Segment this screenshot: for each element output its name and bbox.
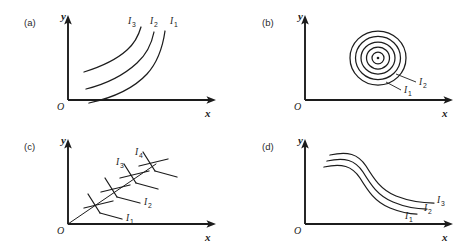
panel-b-label-2: I 2	[418, 77, 427, 89]
panel-d-label-1-sub: 1	[409, 216, 413, 223]
panel-c-label-2: I 2	[143, 197, 152, 209]
panel-c-tag: (c)	[24, 141, 35, 152]
panel-a-origin-label: O	[57, 101, 64, 112]
panel-a-label-3-sub: 3	[132, 21, 136, 28]
panel-c-segment-2-tail	[117, 197, 140, 203]
panel-d-tag: (d)	[262, 141, 274, 152]
panel-a-label-2-sub: 2	[154, 21, 158, 28]
panel-c-segment-1-branch	[84, 201, 113, 208]
panel-c-y-axis-label: y	[59, 134, 66, 146]
panel-b-label-2-sub: 2	[423, 82, 427, 89]
panel-c-origin-label: O	[57, 225, 64, 236]
panel-d-label-2: I 2	[423, 203, 432, 215]
panel-c-segment-4-tail	[155, 171, 177, 177]
panel-b-y-axis-label: y	[296, 10, 303, 22]
panel-a: (a) O y x I 3 I 2 I 1	[24, 10, 216, 119]
panel-b: (b) O y x I 2 I 1	[262, 10, 453, 119]
panel-b-axes	[301, 15, 453, 104]
panel-c-segment-2	[101, 178, 140, 203]
panel-b-x-axis-label: x	[441, 107, 448, 119]
four-panel-curve-figure: (a) O y x I 3 I 2 I 1 (b)	[0, 0, 476, 248]
panel-b-leader-2	[396, 74, 416, 82]
panel-b-label-1: I 1	[403, 85, 412, 97]
panel-a-tag: (a)	[24, 17, 36, 28]
panel-d: (d) O y x I 3 I 2 I 1	[262, 134, 453, 243]
panel-d-label-2-sub: 2	[428, 208, 432, 215]
panel-d-y-axis-label: y	[296, 134, 303, 146]
panel-d-curve-2	[327, 159, 427, 209]
panel-d-label-3-sub: 3	[441, 200, 445, 207]
panel-c-segment-4-branch	[139, 159, 168, 166]
panel-a-label-1: I 1	[169, 16, 178, 28]
panel-c-label-1-sub: 1	[130, 218, 134, 225]
panel-a-y-axis-label: y	[59, 10, 66, 22]
panel-a-label-3: I 3	[127, 16, 136, 28]
panel-a-label-1-sub: 1	[174, 21, 178, 28]
panel-a-curve-1	[89, 31, 165, 103]
panel-a-label-2: I 2	[149, 16, 158, 28]
panel-c-label-2-sub: 2	[148, 202, 152, 209]
panel-c-segment-3-stroke	[124, 164, 136, 183]
panel-c-segment-4	[139, 152, 177, 177]
panel-b-tag: (b)	[262, 17, 274, 28]
panel-c-segment-1-tail	[100, 213, 122, 219]
panel-d-x-axis-label: x	[441, 231, 448, 243]
panel-c-label-3: I 3	[115, 157, 124, 169]
panel-c-segment-1	[84, 194, 122, 219]
panel-b-leader-1	[386, 82, 401, 90]
panel-b-origin-label: O	[294, 101, 301, 112]
panel-c-label-3-sub: 3	[120, 162, 124, 169]
panel-c-segment-3-branch	[120, 171, 149, 178]
panel-d-origin-label: O	[294, 225, 301, 236]
panel-c: (c) O y x	[24, 134, 216, 243]
panel-c-segment-3-tail	[136, 183, 158, 189]
panel-c-segment-2-branch	[101, 185, 130, 192]
panel-a-x-axis-label: x	[204, 107, 211, 119]
panel-b-label-1-sub: 1	[408, 90, 412, 97]
panel-a-curve-3	[84, 27, 141, 72]
panel-c-x-axis-label: x	[204, 231, 211, 243]
panel-c-label-4: I 4	[134, 147, 143, 159]
panel-c-segment-4-stroke	[143, 152, 155, 171]
panel-a-curve-2	[86, 32, 154, 89]
panel-c-label-4-sub: 4	[139, 152, 143, 159]
panel-d-label-3: I 3	[436, 195, 445, 207]
panel-b-center-dot	[377, 57, 380, 60]
